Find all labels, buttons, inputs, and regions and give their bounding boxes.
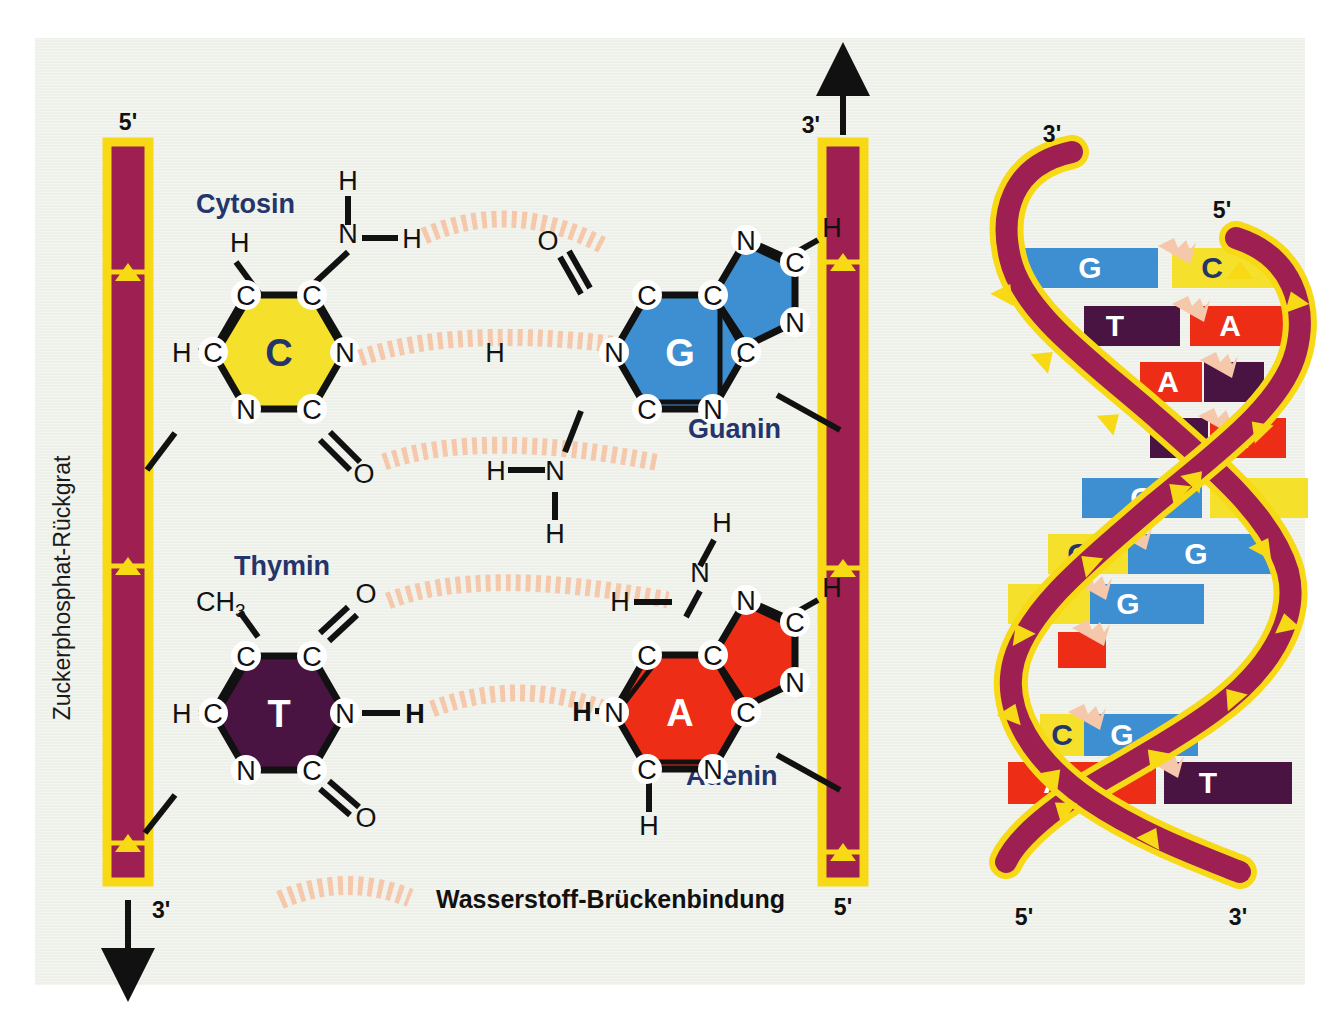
- helix-rung-6-right: G: [1116, 587, 1139, 620]
- helix-bottom-right-prime: 3': [1229, 904, 1247, 930]
- svg-text:H: H: [405, 699, 425, 729]
- svg-text:H: H: [572, 697, 592, 727]
- thymine-letter: T: [267, 693, 290, 735]
- svg-text:H: H: [338, 166, 358, 196]
- cytosine-letter: C: [265, 332, 292, 374]
- sugar-phosphate-backbone-label: Zuckerphosphat-Rückgrat: [49, 455, 75, 720]
- thymine-title: Thymin: [234, 551, 330, 581]
- backbone-right-top-prime: 3': [802, 112, 820, 138]
- svg-text:N: N: [338, 219, 358, 249]
- dna-double-helix: G C T A A A G C: [990, 121, 1309, 930]
- svg-text:C: C: [785, 608, 805, 638]
- svg-text:N: N: [703, 395, 723, 425]
- svg-text:O: O: [355, 803, 376, 833]
- svg-text:C: C: [203, 699, 223, 729]
- svg-text:N: N: [785, 308, 805, 338]
- svg-text:O: O: [353, 459, 374, 489]
- svg-text:C: C: [637, 641, 657, 671]
- svg-text:N: N: [335, 699, 355, 729]
- svg-text:H: H: [822, 573, 842, 603]
- svg-text:H: H: [712, 508, 732, 538]
- svg-text:H: H: [230, 228, 250, 258]
- legend-hbond-label: Wasserstoff-Brückenbindung: [436, 885, 785, 913]
- svg-text:C: C: [703, 641, 723, 671]
- svg-text:C: C: [302, 642, 322, 672]
- svg-text:N: N: [236, 395, 256, 425]
- svg-text:C: C: [203, 338, 223, 368]
- backbone-left-bottom-prime: 3': [152, 897, 170, 923]
- svg-text:N: N: [690, 558, 710, 588]
- svg-text:C: C: [736, 698, 756, 728]
- svg-text:N: N: [604, 698, 624, 728]
- svg-text:C: C: [302, 281, 322, 311]
- svg-text:H: H: [486, 456, 506, 486]
- backbone-left: 5' 3': [107, 109, 170, 972]
- svg-text:N: N: [604, 338, 624, 368]
- svg-text:N: N: [236, 756, 256, 786]
- helix-rung-0-right: C: [1201, 251, 1223, 284]
- helix-rung-2-left: A: [1157, 365, 1179, 398]
- svg-text:O: O: [355, 579, 376, 609]
- backbone-right: 3' 5': [802, 72, 864, 920]
- svg-text:N: N: [335, 338, 355, 368]
- svg-text:H: H: [545, 519, 565, 549]
- svg-text:N: N: [785, 668, 805, 698]
- legend: Wasserstoff-Brückenbindung: [280, 885, 785, 913]
- helix-top-right-prime: 5': [1213, 197, 1231, 223]
- backbone-right-bottom-prime: 5': [834, 894, 852, 920]
- legend-hbond-swatch: [280, 885, 410, 900]
- svg-text:H: H: [485, 338, 505, 368]
- svg-text:C: C: [703, 281, 723, 311]
- svg-text:C: C: [637, 755, 657, 785]
- svg-text:O: O: [537, 226, 558, 256]
- backbone-left-strip: [107, 142, 149, 882]
- helix-rung-9-right: T: [1199, 766, 1217, 799]
- svg-text:N: N: [736, 586, 756, 616]
- svg-text:N: N: [736, 226, 756, 256]
- svg-text:H: H: [610, 587, 630, 617]
- svg-text:.: .: [736, 338, 744, 368]
- svg-text:C: C: [302, 395, 322, 425]
- svg-text:C: C: [302, 756, 322, 786]
- helix-rung-1-left: T: [1106, 309, 1124, 342]
- cytosine-title: Cytosin: [196, 189, 295, 219]
- helix-bottom-left-prime: 5': [1015, 904, 1033, 930]
- svg-text:C: C: [637, 281, 657, 311]
- helix-rung-5-right: G: [1184, 537, 1207, 570]
- helix-rung-1-right: A: [1219, 309, 1241, 342]
- dna-structure-illustration: 5' 3' Zuckerphosphat-Rückgrat 3' 5' Cyto…: [0, 0, 1343, 1034]
- adenine-letter: A: [666, 692, 693, 734]
- hbond-1: [424, 219, 602, 245]
- figure-canvas: 5' 3' Zuckerphosphat-Rückgrat 3' 5' Cyto…: [0, 0, 1343, 1034]
- svg-text:N: N: [703, 755, 723, 785]
- svg-text:C: C: [785, 248, 805, 278]
- svg-text:H: H: [172, 699, 192, 729]
- svg-text:H: H: [172, 338, 192, 368]
- svg-text:C: C: [637, 395, 657, 425]
- svg-text:CH3: CH3: [196, 587, 246, 621]
- svg-text:H: H: [822, 213, 842, 243]
- hbond-3: [384, 445, 660, 463]
- guanine-letter: G: [665, 332, 695, 374]
- svg-text:H: H: [639, 811, 659, 841]
- svg-text:N: N: [545, 456, 565, 486]
- svg-text:C: C: [236, 642, 256, 672]
- helix-top-left-prime: 3': [1043, 121, 1061, 147]
- svg-text:H: H: [402, 224, 422, 254]
- helix-rung-0-left: G: [1078, 251, 1101, 284]
- svg-text:C: C: [236, 281, 256, 311]
- backbone-left-top-prime: 5': [119, 109, 137, 135]
